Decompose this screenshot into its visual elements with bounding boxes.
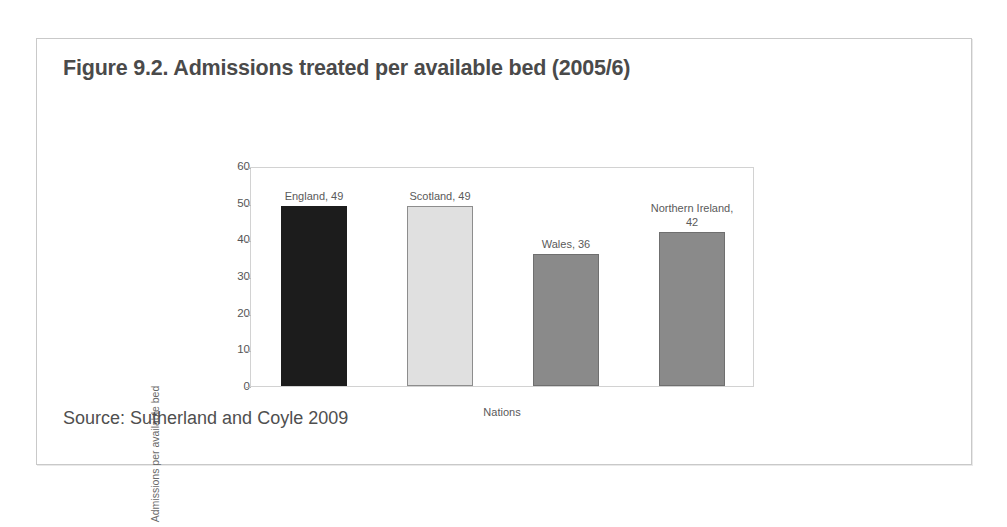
y-tick-label-20: 20 (224, 308, 250, 320)
y-tick-mark-40 (246, 241, 251, 242)
data-label-wales: Wales, 36 (496, 237, 636, 251)
bar-wales[interactable] (533, 254, 599, 386)
y-tick-mark-30 (246, 278, 251, 279)
data-label-england: England, 49 (244, 189, 384, 203)
y-tick-mark-20 (246, 315, 251, 316)
y-tick-label-30: 30 (224, 271, 250, 283)
bar-england[interactable] (281, 206, 347, 386)
bar-chart: Admissions per available bed 60 50 40 30… (154, 111, 854, 401)
bar-northern-ireland[interactable] (659, 232, 725, 386)
y-tick-mark-60 (246, 168, 251, 169)
y-tick-mark-50 (246, 205, 251, 206)
figure-title: Figure 9.2. Admissions treated per avail… (63, 56, 630, 81)
y-tick-label-60: 60 (224, 161, 250, 173)
y-tick-mark-10 (246, 351, 251, 352)
data-label-scotland: Scotland, 49 (370, 189, 510, 203)
y-tick-label-40: 40 (224, 234, 250, 246)
source-note: Source: Sutherland and Coyle 2009 (63, 408, 348, 429)
y-axis: 60 50 40 30 20 10 0 (154, 167, 250, 387)
y-tick-mark-0 (246, 387, 251, 388)
plot-area: England, 49 Scotland, 49 Wales, 36 North… (250, 167, 754, 387)
y-tick-label-10: 10 (224, 344, 250, 356)
data-label-northern-ireland: Northern Ireland, 42 (622, 201, 762, 229)
figure-container: Figure 9.2. Admissions treated per avail… (36, 38, 972, 465)
bar-scotland[interactable] (407, 206, 473, 386)
